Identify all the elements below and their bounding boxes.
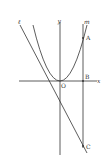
point-a (82, 37, 84, 39)
origin-label: O (61, 82, 66, 89)
point-b-label: B (85, 73, 90, 80)
point-c-label: C (86, 143, 91, 150)
x-axis-label: x (97, 77, 101, 84)
diagram-canvas: x y O ℓ m A B C (0, 0, 112, 167)
y-axis-label: y (57, 17, 62, 25)
point-b (82, 80, 84, 82)
line-l (20, 25, 87, 153)
line-m-label: m (84, 18, 90, 25)
line-l-label: ℓ (18, 18, 21, 25)
point-c (82, 145, 84, 147)
point-a-label: A (85, 34, 91, 41)
